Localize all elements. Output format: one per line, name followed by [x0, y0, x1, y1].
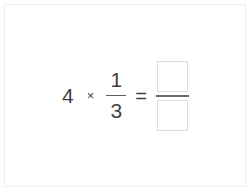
answer-fraction	[156, 61, 189, 131]
whole-number-operand: 4	[61, 85, 75, 106]
problem-card: 4 × 1 3 =	[4, 4, 246, 187]
equals-icon: =	[126, 86, 156, 106]
fraction-operand: 1 3	[106, 68, 126, 122]
fraction-numerator: 1	[109, 68, 123, 92]
fraction-bar	[106, 95, 126, 96]
answer-numerator-input[interactable]	[157, 61, 188, 92]
answer-fraction-bar	[156, 95, 189, 97]
multiplication-icon: ×	[75, 89, 107, 102]
fraction-denominator: 3	[109, 99, 123, 123]
answer-denominator-input[interactable]	[157, 100, 188, 131]
equation-row: 4 × 1 3 =	[5, 5, 245, 186]
